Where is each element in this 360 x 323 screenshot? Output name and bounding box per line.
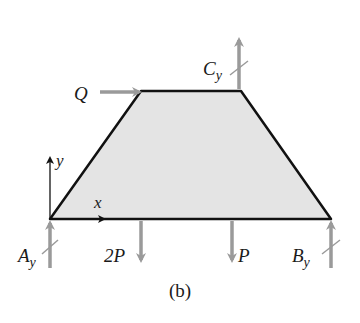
free-body-diagram: y x Q Cy Ay 2P P By (b)	[0, 0, 360, 323]
force-Cy-label: Cy	[203, 58, 223, 83]
force-Q-label: Q	[74, 83, 88, 104]
force-Ay-label: Ay	[16, 245, 37, 270]
force-By-label: By	[292, 245, 311, 270]
force-2P-label: 2P	[104, 245, 126, 266]
figure-caption: (b)	[169, 280, 191, 302]
y-axis-label: y	[54, 151, 64, 170]
force-P-label: P	[237, 245, 250, 266]
x-axis-label: x	[93, 193, 102, 212]
trapezoid-body	[50, 91, 331, 219]
